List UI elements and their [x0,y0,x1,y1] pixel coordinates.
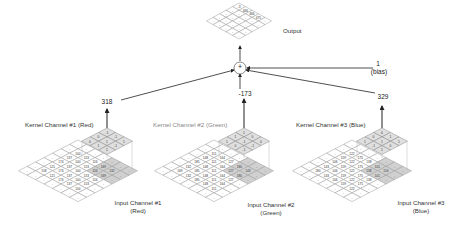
svg-text:-: - [245,16,246,20]
svg-text:-: - [247,160,248,164]
svg-text:-: - [77,196,78,200]
svg-text:-1: -1 [372,144,375,148]
svg-text:-: - [251,19,252,23]
svg-text:143: 143 [245,169,251,173]
svg-text:-: - [213,196,214,200]
svg-text:111: 111 [212,169,217,173]
svg-text:-1: -1 [114,135,117,139]
svg-text:-1: -1 [243,148,246,152]
svg-text:164: 164 [220,165,226,169]
svg-text:-: - [326,182,327,186]
svg-text:174: 174 [58,178,64,182]
svg-text:-: - [179,178,180,182]
svg-text:127: 127 [228,160,234,164]
svg-text:-1: -1 [114,144,117,148]
bias-value: 1 [376,60,380,67]
svg-text:174: 174 [58,160,64,164]
svg-text:1: 1 [381,140,383,144]
svg-text:-: - [317,160,318,164]
svg-text:122: 122 [349,178,355,182]
svg-text:-: - [219,23,220,27]
svg-text:143: 143 [324,165,330,169]
svg-text:175: 175 [358,165,364,169]
svg-text:-: - [171,165,172,169]
svg-text:-: - [239,182,240,186]
svg-text:0: 0 [373,135,375,139]
svg-text:1: 1 [98,144,100,148]
svg-text:1: 1 [106,148,108,152]
input-2-label-line1: Input Channel #2 [247,201,294,208]
svg-text:138: 138 [366,160,372,164]
svg-text:0: 0 [252,135,254,139]
svg-text:-: - [238,34,239,38]
svg-text:-1: -1 [106,131,109,135]
svg-text:185: 185 [194,169,200,173]
svg-text:-: - [205,147,206,151]
svg-text:-: - [225,27,226,31]
svg-text:-: - [179,160,180,164]
svg-text:466: 466 [249,12,255,16]
svg-text:466: 466 [243,9,249,13]
svg-text:-: - [103,156,104,160]
svg-text:-: - [212,19,213,23]
svg-text:-: - [213,143,214,147]
svg-text:-: - [232,30,233,34]
svg-text:-: - [188,182,189,186]
input-grid-2: --------111164127180143--148111164127180… [155,140,274,202]
svg-text:100: 100 [75,152,81,156]
svg-text:0: 0 [89,140,91,144]
svg-text:175: 175 [358,156,364,160]
svg-text:127: 127 [228,169,234,173]
svg-text:175: 175 [358,174,364,178]
svg-text:148: 148 [203,156,209,160]
bias-label: (bias) [371,68,387,75]
svg-text:159: 159 [341,156,347,160]
svg-text:111: 111 [212,160,217,164]
svg-text:-: - [205,191,206,195]
svg-text:143: 143 [324,174,330,178]
svg-text:132: 132 [109,169,115,173]
svg-text:-: - [188,156,189,160]
svg-text:153: 153 [84,182,90,186]
svg-text:137: 137 [67,156,73,160]
svg-text:159: 159 [341,182,347,186]
svg-text:-: - [230,152,231,156]
svg-text:-: - [232,16,233,20]
input-grid-1: --------100153116169132--137100153116169… [19,140,138,202]
svg-text:-: - [232,23,233,27]
svg-text:1: 1 [398,140,400,144]
svg-text:153: 153 [84,165,90,169]
svg-text:-: - [245,23,246,27]
svg-text:-: - [343,191,344,195]
svg-text:106: 106 [332,160,338,164]
svg-text:-: - [120,165,121,169]
svg-text:0: 0 [98,135,100,139]
kernel-1-label: Kernel Channel #1 (Red) [25,121,93,128]
svg-text:1: 1 [226,140,228,144]
svg-text:111: 111 [212,178,217,182]
svg-text:-: - [309,165,310,169]
svg-text:-3: -3 [238,5,241,9]
connection-arrows [107,46,382,128]
svg-text:-: - [368,187,369,191]
svg-text:-: - [394,165,395,169]
svg-text:-: - [222,191,223,195]
input-3-label-line1: Input Channel #3 [397,199,444,206]
svg-text:-: - [300,169,301,173]
svg-text:116: 116 [92,169,97,173]
svg-text:100: 100 [75,178,81,182]
svg-text:137: 137 [67,174,73,178]
svg-text:111: 111 [212,152,217,156]
svg-text:121: 121 [50,174,56,178]
svg-text:158: 158 [41,169,47,173]
svg-text:-: - [351,196,352,200]
svg-text:132: 132 [186,165,192,169]
svg-text:-: - [360,147,361,151]
svg-text:-: - [360,191,361,195]
svg-text:-: - [225,19,226,23]
svg-text:132: 132 [186,174,192,178]
svg-text:1: 1 [390,135,392,139]
svg-text:1: 1 [364,140,366,144]
svg-text:-: - [317,178,318,182]
svg-text:-: - [377,182,378,186]
